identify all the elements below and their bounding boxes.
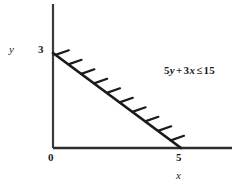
inequality-annotation: 5y+3x≤15 bbox=[164, 65, 215, 76]
x-axis-label: x bbox=[176, 170, 181, 181]
less-than-or-equal-icon: ≤ bbox=[195, 64, 203, 76]
x-intercept-tick-label: 5 bbox=[176, 152, 182, 163]
boundary-line bbox=[53, 53, 181, 148]
origin-tick-label: 0 bbox=[48, 152, 54, 163]
plus-operator: + bbox=[175, 64, 184, 76]
constant-value: 15 bbox=[204, 64, 216, 76]
inequality-graph-figure: y x 3 0 5 5y+3x≤15 bbox=[0, 0, 238, 185]
y-intercept-tick-label: 3 bbox=[38, 44, 44, 55]
y-axis-label: y bbox=[9, 44, 14, 55]
graph-canvas bbox=[0, 0, 238, 185]
